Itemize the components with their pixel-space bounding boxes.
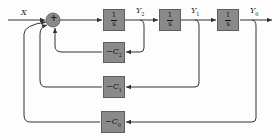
integrator-denominator: s <box>226 21 230 28</box>
integrator-block-1: 1s <box>103 9 125 31</box>
integrator-block-3: 1s <box>217 9 239 31</box>
integrator-numerator: 1 <box>226 12 230 19</box>
input-label: X <box>21 8 27 17</box>
gain-block-c1: −C1 <box>103 76 125 98</box>
signal-label-y2: Y2 <box>136 6 144 17</box>
signal-label-y0: Y0 <box>250 6 258 17</box>
integrator-denominator: s <box>168 21 172 28</box>
integrator-numerator: 1 <box>112 12 116 19</box>
gain-block-c2: −C2 <box>103 42 125 63</box>
integrator-denominator: s <box>112 21 116 28</box>
summing-junction-symbol: + <box>50 13 58 23</box>
signal-label-y1: Y1 <box>191 6 199 17</box>
integrator-numerator: 1 <box>168 12 172 19</box>
integrator-block-2: 1s <box>159 9 181 31</box>
gain-block-c0: −C0 <box>101 111 125 133</box>
block-diagram: + X 1s 1s 1s Y2 Y1 Y0 −C2 −C1 −C0 <box>0 0 280 140</box>
